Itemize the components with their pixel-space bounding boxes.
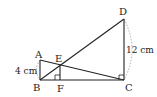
segment-bd: [40, 19, 124, 80]
segment-ac: [40, 60, 124, 80]
label-length-ab: 4 cm: [15, 66, 38, 76]
label-point-c: C: [125, 82, 133, 93]
label-point-e: E: [55, 53, 62, 64]
label-point-a: A: [34, 49, 43, 60]
label-point-b: B: [33, 82, 40, 93]
label-length-dc: 12 cm: [126, 45, 154, 55]
right-angle-mark-f: [55, 75, 60, 80]
label-point-d: D: [119, 6, 127, 17]
label-point-f: F: [57, 83, 64, 94]
geometry-diagram: A B C D E F 4 cm 12 cm: [0, 0, 157, 97]
